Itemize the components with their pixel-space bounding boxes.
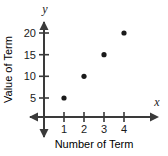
y-axis-title: Value of Term <box>2 22 14 118</box>
data-point <box>61 95 66 100</box>
scatter-plot-figure: 20 15 10 5 1 2 3 4 y x Value of Term Num… <box>0 0 168 156</box>
y-tick-label: 20 <box>24 27 36 39</box>
x-tick-label: 2 <box>81 123 87 135</box>
data-point <box>121 30 126 35</box>
y-tick-label: 5 <box>30 92 36 104</box>
x-axis-letter: x <box>153 95 160 109</box>
data-point <box>81 74 86 79</box>
data-point <box>101 52 106 57</box>
y-axis-arrow-up-icon <box>40 21 49 30</box>
y-axis-arrow-down-icon <box>40 129 49 138</box>
y-axis-letter: y <box>41 2 48 16</box>
y-tick-label: 15 <box>24 49 36 61</box>
x-axis-title: Number of Term <box>30 138 158 150</box>
y-tick-label: 10 <box>24 70 36 82</box>
x-tick-label: 1 <box>61 123 67 135</box>
x-tick-label: 4 <box>121 123 127 135</box>
x-axis-arrow-left-icon <box>29 113 38 122</box>
plot-canvas: 20 15 10 5 1 2 3 4 y x <box>0 0 168 156</box>
x-axis-arrow-right-icon <box>150 113 159 122</box>
x-tick-label: 3 <box>101 123 107 135</box>
